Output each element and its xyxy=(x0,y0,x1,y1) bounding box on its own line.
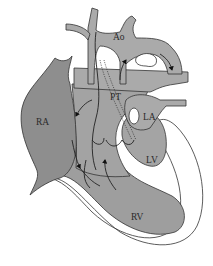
label-ra: RA xyxy=(36,117,49,127)
heart-diagram: Ao PT RA LA LV RV xyxy=(0,0,213,266)
label-rv: RV xyxy=(131,212,144,222)
label-pt: PT xyxy=(110,92,121,102)
arch-opening xyxy=(136,54,157,67)
label-ao: Ao xyxy=(113,32,125,42)
la-opening xyxy=(129,108,139,124)
label-lv: LV xyxy=(146,155,158,165)
label-la: LA xyxy=(143,112,156,122)
head-vessel xyxy=(66,24,90,40)
